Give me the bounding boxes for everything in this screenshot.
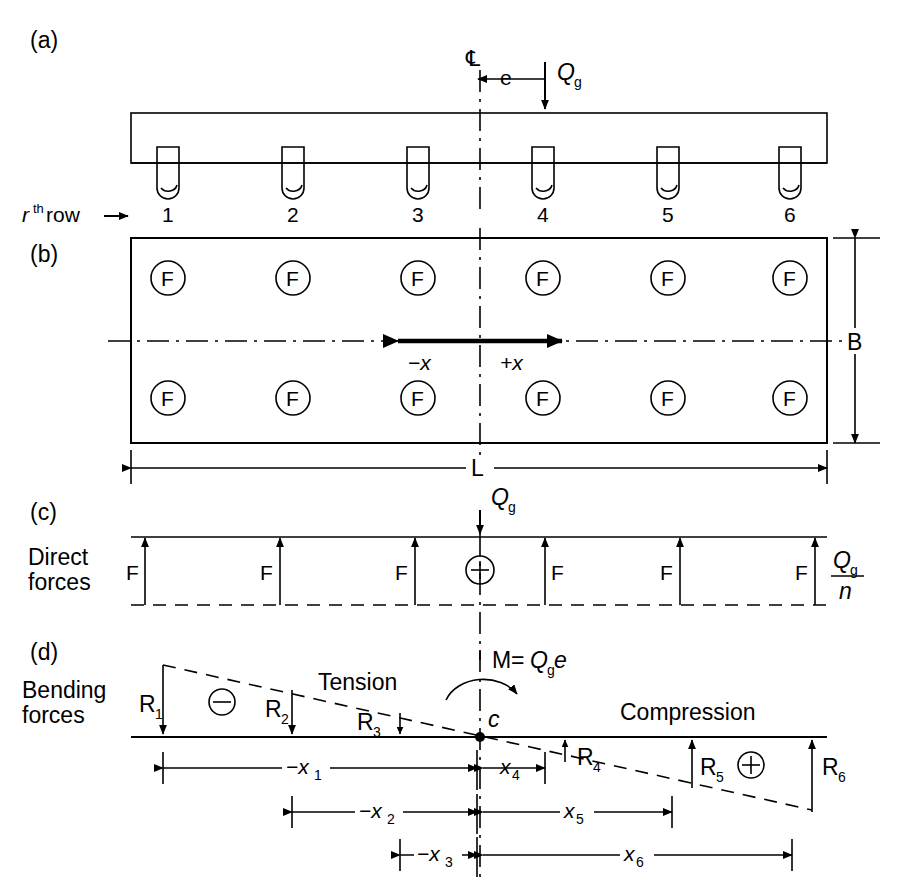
dim-label-x4: x [499,755,512,778]
row-label-text: row [46,203,81,226]
dim-subscript-x1: 1 [314,767,322,783]
length-dimension-L: L [131,450,827,484]
load-subscript-a: g [574,74,582,90]
pile-circle-label: F [161,267,174,290]
reaction-subscript: 4 [593,759,601,775]
direct-force-label-3: F [395,561,408,584]
reaction-subscript: 6 [838,769,846,785]
reaction-symbol: R [139,691,156,717]
bending-forces-title-line2: forces [22,702,85,728]
row-label-superscript: th [33,201,44,216]
moment-M: M [492,647,511,673]
pile-circle-label: F [411,387,424,410]
fraction-denominator: n [839,578,852,604]
panel-a-label: (a) [30,27,58,53]
reaction-symbol: R [357,709,374,735]
pile-circle-b7: F [151,381,185,415]
compression-label: Compression [620,699,756,725]
centerline-glyph: ℄ [465,46,481,71]
pile-number-6: 6 [784,203,796,226]
positive-x-label: +x [500,351,524,374]
pile-number-5: 5 [662,203,674,226]
pile-circle-b11: F [651,381,685,415]
pile-number-3: 3 [412,203,424,226]
moment-e: e [554,647,567,673]
direct-force-label-2: F [260,561,273,584]
pile-circle-b6: F [773,261,807,295]
load-per-pile-fraction: Q g n [831,547,864,604]
pile-circle-b10: F [526,381,560,415]
direct-force-label-4: F [551,561,564,584]
dimension-row-2: −x 2 x 5 [292,794,672,834]
piles-elevation [157,147,801,199]
dim-subscript-x2: 2 [387,811,395,827]
dim-subscript-x6: 6 [636,854,644,870]
dimension-row-1: −x 1 x 4 [163,750,545,790]
pile-circle-label: F [411,267,424,290]
direct-force-label-5: F [660,561,673,584]
reaction-subscript: 5 [716,769,724,785]
moment-annotation: M = Q g e [446,647,567,700]
dim-label-x5: x [563,799,576,822]
pile-circle-b4: F [526,261,560,295]
pile-circle-label: F [661,267,674,290]
row-label-r: r [22,203,30,226]
panel-b-group: (b) F F F F F F F F F F F F −x +x [30,228,880,484]
direct-forces-title-line1: Direct [28,544,89,570]
pile-circle-label: F [783,387,796,410]
pile-circle-label: F [661,387,674,410]
reaction-symbol: R [822,754,839,780]
pile-circles-top-row: F F F F F F [151,261,807,295]
dim-label-x6: x [623,842,636,865]
pile-circle-b3: F [401,261,435,295]
tension-label: Tension [318,669,397,695]
pile-number-2: 2 [287,203,299,226]
panel-c-label: (c) [30,499,57,525]
panel-d-label: (d) [30,639,58,665]
direct-forces-title-line2: forces [28,569,91,595]
pile-circle-label: F [161,387,174,410]
load-subscript-c: g [508,499,516,515]
load-symbol-c: Q [491,484,509,510]
reaction-label-R5: R 5 [700,754,724,785]
dim-subscript-x5: 5 [576,811,584,827]
centroid-point [475,732,485,742]
pile-circle-label: F [536,387,549,410]
dim-label-x3: −x [417,842,441,865]
pile-circle-label: F [286,387,299,410]
reaction-symbol: R [577,744,594,770]
reaction-label-R3: R 3 [357,709,381,740]
B-label: B [847,329,862,355]
centerline-symbol-a: ℄ [465,46,481,71]
negative-x-label: −x [408,351,432,374]
reaction-subscript: 1 [155,706,163,722]
pile-circle-b9: F [401,381,435,415]
row-label: r th row [22,201,128,226]
dim-subscript-x3: 3 [445,854,453,870]
load-label-a: Q g [557,59,582,90]
pile-circle-label: F [286,267,299,290]
pile-2 [282,147,304,199]
pile-1 [157,147,179,199]
centroid-label: c [488,706,500,732]
pile-circle-b1: F [151,261,185,295]
reaction-label-R6: R 6 [822,754,846,785]
pile-5 [657,147,679,199]
reaction-label-R1: R 1 [139,691,163,722]
dimension-row-3: −x 3 x 6 [400,837,792,877]
reaction-symbol: R [265,696,282,722]
load-label-c: Q g [491,484,516,515]
panel-d-group: (d) Bending forces Tension Compression M… [22,639,846,880]
pile-number-4: 4 [537,203,549,226]
minus-circle-d [209,689,235,715]
pile-3 [407,147,429,199]
pile-circles-bottom-row: F F F F F F [151,381,807,415]
pile-circle-b2: F [276,261,310,295]
pile-6 [779,147,801,199]
reaction-label-R4: R 4 [577,744,601,775]
moment-arc-arrow [446,679,517,700]
pile-circle-b12: F [773,381,807,415]
pile-circle-b5: F [651,261,685,295]
bending-forces-title-line1: Bending [22,677,106,703]
L-label: L [471,455,484,481]
